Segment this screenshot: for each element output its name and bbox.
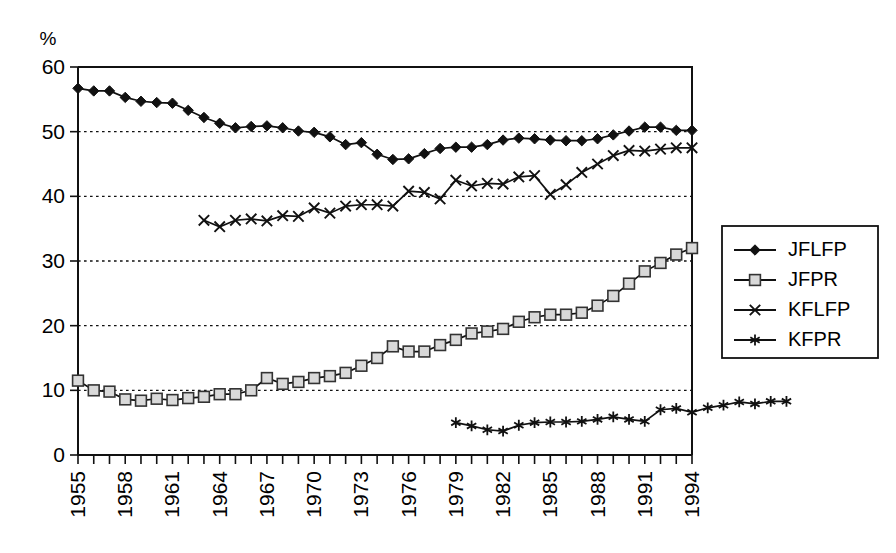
marker-square: [151, 393, 162, 404]
marker-square: [136, 395, 147, 406]
marker-square: [482, 326, 493, 337]
x-tick-label: 1976: [397, 471, 420, 518]
marker-square: [167, 395, 178, 406]
marker-square: [466, 328, 477, 339]
x-tick-label: 1961: [160, 471, 183, 518]
chart-legend: JFLFPJFPRKFLFPKFPR: [722, 226, 878, 358]
legend-label: JFPR: [788, 268, 838, 290]
marker-square: [687, 243, 698, 254]
marker-square: [230, 389, 241, 400]
marker-square: [545, 309, 556, 320]
marker-square: [419, 346, 430, 357]
legend-label: KFLFP: [788, 298, 850, 320]
marker-square: [293, 377, 304, 388]
marker-square: [120, 394, 131, 405]
marker-square: [340, 367, 351, 378]
marker-square: [309, 373, 320, 384]
x-tick-label: 1973: [349, 471, 372, 518]
x-tick-label: 1970: [302, 471, 325, 518]
chart-container: % 0102030405060 195519581961196419671970…: [0, 0, 896, 553]
y-tick-label: 10: [42, 378, 65, 401]
marker-square: [639, 266, 650, 277]
marker-square: [592, 300, 603, 311]
legend-label: KFPR: [788, 328, 841, 350]
marker-square: [246, 385, 257, 396]
marker-square: [624, 278, 635, 289]
marker-square: [104, 386, 115, 397]
y-tick-label: 40: [42, 184, 65, 207]
y-tick-label: 50: [42, 120, 65, 143]
y-tick-label: 30: [42, 249, 65, 272]
marker-square: [750, 275, 761, 286]
marker-square: [513, 316, 524, 327]
y-axis-unit-label: %: [40, 28, 57, 49]
y-tick-label: 0: [53, 443, 65, 466]
marker-square: [655, 258, 666, 269]
marker-square: [73, 375, 84, 386]
marker-square: [498, 324, 509, 335]
x-tick-label: 1994: [680, 471, 703, 518]
x-tick-label: 1982: [491, 471, 514, 518]
y-tick-label: 60: [42, 55, 65, 78]
y-tick-label: 20: [42, 314, 65, 337]
marker-square: [356, 360, 367, 371]
marker-square: [561, 309, 572, 320]
legend-label: JFLFP: [788, 238, 847, 260]
x-tick-label: 1964: [208, 471, 231, 518]
x-tick-label: 1958: [113, 471, 136, 518]
marker-square: [450, 334, 461, 345]
marker-square: [529, 312, 540, 323]
marker-square: [576, 307, 587, 318]
marker-square: [403, 346, 414, 357]
marker-square: [277, 378, 288, 389]
marker-square: [608, 291, 619, 302]
x-tick-label: 1955: [66, 471, 89, 518]
marker-square: [435, 340, 446, 351]
x-tick-label: 1985: [538, 471, 561, 518]
marker-square: [199, 391, 210, 402]
marker-square: [324, 371, 335, 382]
marker-square: [372, 353, 383, 364]
marker-square: [671, 249, 682, 260]
marker-square: [88, 385, 99, 396]
x-tick-label: 1979: [444, 471, 467, 518]
marker-square: [214, 389, 225, 400]
x-tick-label: 1988: [586, 471, 609, 518]
marker-square: [387, 341, 398, 352]
marker-square: [262, 373, 273, 384]
marker-square: [183, 393, 194, 404]
x-tick-label: 1967: [255, 471, 278, 518]
x-tick-label: 1991: [633, 471, 656, 518]
line-chart: % 0102030405060 195519581961196419671970…: [0, 0, 896, 553]
